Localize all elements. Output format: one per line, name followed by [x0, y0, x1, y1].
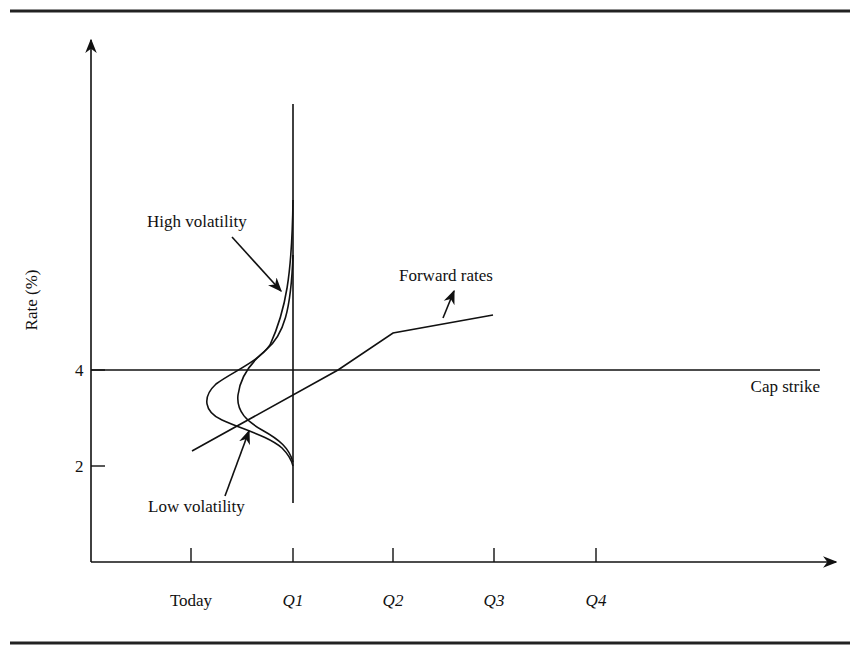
x-tick-label-q3: Q3: [484, 591, 505, 610]
forward-rates-line: [192, 315, 493, 451]
y-tick-label-2: 2: [75, 457, 84, 476]
y-tick-label-4: 4: [75, 361, 84, 380]
x-tick-label-q4: Q4: [586, 591, 607, 610]
y-axis-label: Rate (%): [22, 270, 41, 331]
high-volatility-arrow: [232, 237, 281, 291]
diagram-canvas: 4 2 Rate (%) Today Q1 Q2 Q3 Q4 Cap strik…: [0, 0, 860, 655]
x-tick-label-q1: Q1: [283, 591, 304, 610]
low-volatility-curve: [238, 255, 293, 462]
x-tick-label-q2: Q2: [383, 591, 404, 610]
low-volatility-label: Low volatility: [148, 497, 245, 516]
low-volatility-arrow: [225, 431, 249, 496]
x-tick-label-today: Today: [170, 591, 213, 610]
high-volatility-label: High volatility: [147, 212, 247, 231]
cap-strike-label: Cap strike: [751, 377, 820, 396]
forward-rates-label: Forward rates: [399, 266, 493, 285]
forward-rates-arrow: [443, 291, 454, 318]
